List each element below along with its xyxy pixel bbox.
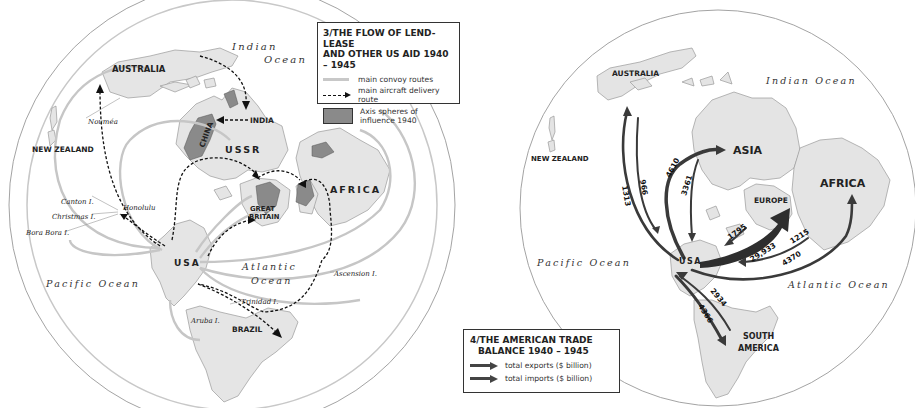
legend-item-exports: total exports ($ billion) [470, 360, 613, 370]
ocean-atlantic: Atlantic Ocean [787, 279, 890, 290]
label-australia: AUSTRALIA [112, 64, 166, 74]
legend-title-line2: BALANCE 1940 – 1945 [470, 346, 613, 357]
legend-label: main convoy routes [358, 75, 433, 84]
place-bora-bora: Bora Bora I. [25, 229, 69, 237]
label-africa: AFRICA [330, 184, 381, 195]
place-christmas: Christmas I. [52, 213, 95, 221]
label-south-america-1: SOUTH [743, 332, 774, 341]
label-brazil: BRAZIL [232, 325, 263, 334]
flow-asia-import: 3361 [679, 174, 694, 197]
flow-europe-import: 1795 [726, 222, 748, 242]
flow-asia-export: 4610 [664, 156, 682, 179]
ocean-pacific: Pacific Ocean [536, 257, 631, 268]
label-africa: AFRICA [820, 177, 866, 190]
label-asia: ASIA [733, 144, 763, 157]
lend-lease-legend: 3/THE FLOW OF LEND-LEASE AND OTHER US AI… [317, 22, 460, 104]
ocean-indian-1: Indian [231, 41, 278, 52]
dashed-arrow-icon [323, 90, 351, 100]
trade-balance-legend: 4/THE AMERICAN TRADE BALANCE 1940 – 1945… [463, 329, 620, 393]
legend-item-convoy: main convoy routes [323, 74, 454, 84]
europe-export-arrow [700, 208, 790, 268]
flow-australia-export: 1313 [620, 185, 632, 207]
flow-south-america-export: 2934 [708, 287, 728, 309]
place-trinidad: Trinidad I. [241, 298, 278, 306]
legend-item-aircraft: main aircraft delivery route [323, 86, 454, 104]
ocean-indian: Indian Ocean [765, 75, 857, 86]
export-arrow-icon [470, 360, 498, 370]
convoy-route-swatch-icon [323, 74, 351, 84]
label-india: INDIA [250, 116, 274, 125]
label-ussr: USSR [225, 144, 261, 155]
place-honolulu: Honolulu [122, 204, 156, 212]
ocean-atlantic-2: Ocean [251, 275, 293, 286]
ocean-pacific: Pacific Ocean [45, 278, 140, 289]
label-usa: USA [679, 257, 702, 266]
label-great-britain-2: BRITAIN [249, 213, 280, 221]
flow-africa-import: 4370 [780, 249, 802, 268]
trade-arrows [623, 112, 852, 340]
flow-africa-export: 1215 [788, 227, 810, 246]
label-australia: AUSTRALIA [612, 69, 659, 78]
legend-item-axis: Axis spheres of influence 1940 [323, 107, 454, 125]
ocean-atlantic-1: Atlantic [241, 261, 297, 272]
legend-label: total imports ($ billion) [505, 374, 592, 383]
flow-europe-export: 29,933 [748, 241, 777, 264]
ocean-indian-2: Ocean [264, 54, 307, 65]
label-europe: EUROPE [754, 196, 788, 205]
label-great-britain-1: GREAT [250, 205, 275, 213]
place-aruba: Aruba I. [190, 317, 220, 325]
place-noumea: Nouméa [87, 118, 118, 126]
legend-label: Axis spheres of influence 1940 [360, 107, 454, 125]
flow-australia-import: 966 [638, 179, 650, 196]
legend-label: total exports ($ billion) [505, 361, 592, 370]
axis-swatch-icon [323, 108, 353, 124]
legend-title-line1: 3/THE FLOW OF LEND-LEASE [323, 28, 454, 49]
label-usa: USA [174, 258, 201, 268]
legend-title-line1: 4/THE AMERICAN TRADE [470, 335, 613, 346]
import-arrow-icon [470, 373, 498, 383]
arrowheads [623, 106, 857, 346]
place-ascension: Ascension I. [333, 270, 377, 278]
place-canton: Canton I. [61, 198, 94, 206]
label-new-zealand: NEW ZEALAND [531, 155, 589, 163]
legend-title-line2: AND OTHER US AID 1940 – 1945 [323, 49, 454, 70]
label-new-zealand: NEW ZEALAND [32, 145, 94, 154]
flow-south-america-import: 4366 [696, 302, 715, 324]
legend-item-imports: total imports ($ billion) [470, 373, 613, 383]
label-south-america-2: AMERICA [738, 344, 780, 353]
legend-label: main aircraft delivery route [358, 86, 454, 104]
